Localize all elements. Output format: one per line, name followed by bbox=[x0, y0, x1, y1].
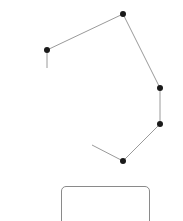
node-group bbox=[44, 11, 163, 164]
node-2 bbox=[120, 11, 126, 17]
connector-path bbox=[47, 14, 160, 161]
empty-box bbox=[61, 186, 150, 221]
node-5 bbox=[120, 158, 126, 164]
node-1 bbox=[44, 47, 50, 53]
node-4 bbox=[157, 121, 163, 127]
node-3 bbox=[157, 85, 163, 91]
